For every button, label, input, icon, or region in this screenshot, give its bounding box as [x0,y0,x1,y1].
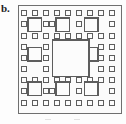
small-square-14 [22,33,27,38]
medium-square-6 [56,82,70,96]
small-square-30 [110,55,115,60]
fractal-diagram [0,0,126,124]
small-square-17 [54,33,59,38]
small-square-2 [43,10,48,15]
small-square-38 [54,77,59,82]
small-square-11 [50,22,55,27]
small-square-34 [110,66,115,71]
large-square-0 [53,40,90,77]
small-square-27 [22,55,27,60]
small-square-43 [110,77,115,82]
small-square-10 [43,22,48,27]
small-square-22 [110,33,115,38]
scan-artifact-right [74,119,80,120]
small-square-20 [87,33,92,38]
small-square-4 [65,10,70,15]
small-square-44 [22,89,27,94]
small-square-52 [54,101,59,106]
small-square-53 [65,101,70,106]
small-square-33 [98,66,103,71]
medium-square-2 [85,18,99,32]
small-square-39 [65,77,70,82]
small-square-46 [50,89,55,94]
small-square-24 [43,44,48,49]
small-square-28 [43,55,48,60]
small-square-42 [98,77,103,82]
large-squares-group [53,40,90,77]
small-square-56 [98,101,103,106]
small-square-1 [32,10,37,15]
small-square-50 [32,101,37,106]
medium-square-5 [28,82,42,96]
small-square-21 [98,33,103,38]
small-square-41 [87,77,92,82]
medium-square-0 [28,18,42,32]
small-square-12 [76,22,81,27]
small-square-13 [110,22,115,27]
small-square-29 [98,55,103,60]
small-square-35 [22,77,27,82]
small-square-49 [22,101,27,106]
small-square-55 [87,101,92,106]
small-square-48 [110,89,115,94]
small-square-40 [76,77,81,82]
small-square-26 [110,44,115,49]
figure-panel: b. [0,0,126,124]
small-square-57 [110,101,115,106]
small-square-19 [76,33,81,38]
small-square-6 [87,10,92,15]
small-square-54 [76,101,81,106]
small-square-51 [43,101,48,106]
medium-square-7 [85,82,99,96]
medium-square-1 [56,18,70,32]
small-square-18 [65,33,70,38]
scan-artifact-left [45,119,51,120]
small-square-0 [22,10,27,15]
small-square-37 [43,77,48,82]
medium-square-3 [28,48,42,62]
small-square-15 [32,33,37,38]
small-square-32 [43,66,48,71]
small-square-23 [22,44,27,49]
small-square-16 [43,33,48,38]
small-square-25 [98,44,103,49]
small-square-47 [76,89,81,94]
small-square-3 [54,10,59,15]
small-square-7 [98,10,103,15]
small-square-45 [43,89,48,94]
small-square-31 [22,66,27,71]
small-square-8 [110,10,115,15]
small-square-5 [76,10,81,15]
small-square-9 [22,22,27,27]
small-square-36 [32,77,37,82]
